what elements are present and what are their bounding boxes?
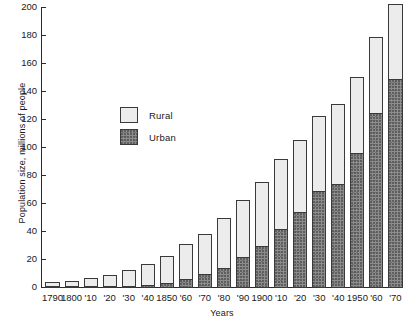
x-tick-label: '30 [123,292,135,303]
y-tick-label: 160 [21,57,37,68]
plot-area: 020406080100120140160180200 17901800'10'… [41,8,403,288]
bar-60 [179,244,193,288]
bar-60 [369,37,383,288]
bar-90 [236,200,250,288]
x-tick-label: 1790 [42,292,63,303]
legend-label-urban: Urban [149,132,176,143]
y-tick-label: 180 [21,29,37,40]
x-tick-label: '60 [370,292,382,303]
y-tick-label: 0 [32,281,37,292]
x-tick-label: '70 [199,292,211,303]
legend-item-rural: Rural [120,107,176,123]
x-tick-label: '30 [313,292,325,303]
y-tick-label: 120 [21,113,37,124]
x-tick-label: 1900 [252,292,273,303]
x-tick-label: 1850 [156,292,177,303]
x-tick-label: '40 [142,292,154,303]
bar-70 [388,4,402,288]
bar-80 [217,218,231,288]
y-tick-label: 80 [26,169,37,180]
x-tick-label: '10 [84,292,96,303]
bar-urban-segment [84,286,98,288]
y-tick-label: 40 [26,225,37,236]
chart-legend: Rural Urban [120,107,176,151]
legend-item-urban: Urban [120,129,176,145]
legend-swatch-urban-icon [120,129,138,145]
y-tick-label: 100 [21,141,37,152]
bar-20 [103,275,117,288]
bar-urban-segment [369,113,383,288]
bar-70 [198,234,212,288]
bar-urban-segment [331,184,345,288]
bar-urban-segment [198,274,212,288]
y-tick-label: 200 [21,1,37,12]
bar-urban-segment [236,257,250,288]
bar-urban-segment [103,286,117,288]
bar-series-group [41,8,403,288]
bar-10 [274,159,288,288]
y-tick-label: 60 [26,197,37,208]
bar-urban-segment [45,286,59,288]
bar-urban-segment [141,285,155,288]
x-tick-label: 1950 [347,292,368,303]
x-tick-label: 1800 [61,292,82,303]
bar-urban-segment [160,283,174,288]
bar-urban-segment [350,153,364,288]
bar-urban-segment [312,191,326,288]
x-tick-label: '20 [294,292,306,303]
bar-urban-segment [274,229,288,288]
bar-40 [331,104,345,288]
bar-1800 [65,281,79,288]
x-tick-label: '70 [389,292,401,303]
bar-30 [312,116,326,288]
bar-1850 [160,256,174,288]
bar-1790 [45,282,59,288]
x-tick-label: '20 [103,292,115,303]
x-tick-label: '60 [180,292,192,303]
bar-urban-segment [388,79,402,288]
bar-30 [122,270,136,288]
bar-40 [141,264,155,288]
bar-urban-segment [293,212,307,288]
bar-urban-segment [122,286,136,288]
y-tick-label: 140 [21,85,37,96]
y-tick-label: 20 [26,253,37,264]
x-tick-label: '90 [237,292,249,303]
bar-urban-segment [179,279,193,288]
legend-swatch-rural-icon [120,107,138,123]
bar-urban-segment [65,286,79,288]
population-stacked-bar-chart: Population size, millions of people 0204… [0,0,406,329]
bar-20 [293,140,307,288]
x-tick-label: '40 [332,292,344,303]
bar-1900 [255,182,269,288]
bar-10 [84,278,98,288]
bar-1950 [350,77,364,288]
bar-urban-segment [255,246,269,288]
x-tick-label: '10 [275,292,287,303]
x-tick-label: '80 [218,292,230,303]
legend-label-rural: Rural [149,110,173,121]
x-axis-title: Years [41,308,403,318]
bar-urban-segment [217,268,231,288]
